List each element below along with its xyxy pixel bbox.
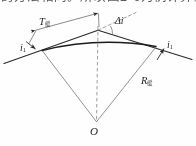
- label-radius-subscript: 缓: [147, 80, 152, 86]
- radius-line-left: [43, 51, 97, 122]
- label-grade-left-subscript: 1: [23, 46, 26, 53]
- figure-page: 的方法相同。所以图2-6为例计算。: [0, 0, 196, 146]
- vertical-curve-diagram: [0, 0, 196, 146]
- label-grade-left: i1: [20, 42, 26, 53]
- left-tangent-line: [4, 30, 98, 63]
- label-grade-right: i1: [167, 39, 173, 50]
- label-grade-right-subscript: 1: [170, 43, 173, 50]
- label-tangent-length-subscript: 缓: [45, 20, 50, 26]
- label-delta-i-symbol: Δi: [115, 15, 124, 26]
- centerline-dashed: [97, 26, 99, 122]
- label-center-o-symbol: O: [90, 125, 98, 137]
- tangent-length-leader-right: [99, 14, 100, 28]
- label-delta-i: Δi: [115, 15, 124, 26]
- tangent-length-leader-left: [29, 31, 36, 44]
- label-radius: R缓: [141, 75, 152, 87]
- grade-left-arrow: [26, 42, 36, 50]
- label-tangent-length: T缓: [39, 16, 50, 28]
- delta-i-angle-arc: [111, 26, 113, 34]
- label-center-o: O: [90, 125, 98, 137]
